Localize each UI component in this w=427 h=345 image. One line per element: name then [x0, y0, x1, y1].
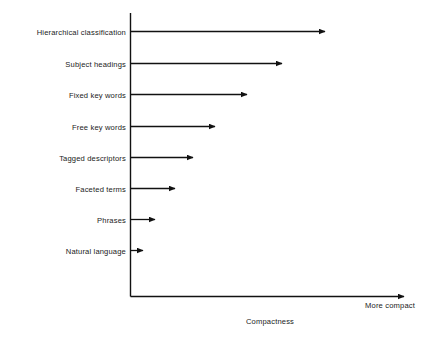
category-label-natural-language: Natural language	[0, 246, 126, 255]
category-label-faceted-terms: Faceted terms	[0, 184, 126, 193]
x-axis-title: Compactness	[190, 317, 350, 326]
chart-canvas	[0, 0, 427, 345]
category-label-subject-headings: Subject headings	[0, 59, 126, 68]
compactness-chart: Hierarchical classification Subject head…	[0, 0, 427, 345]
more-compact-label: More compact	[265, 301, 415, 310]
category-label-fixed-key-words: Fixed key words	[0, 90, 126, 99]
category-label-hierarchical-classification: Hierarchical classification	[0, 27, 126, 36]
category-label-tagged-descriptors: Tagged descriptors	[0, 153, 126, 162]
bar-arrow-group	[131, 32, 325, 251]
category-label-free-key-words: Free key words	[0, 122, 126, 131]
category-label-phrases: Phrases	[0, 215, 126, 224]
